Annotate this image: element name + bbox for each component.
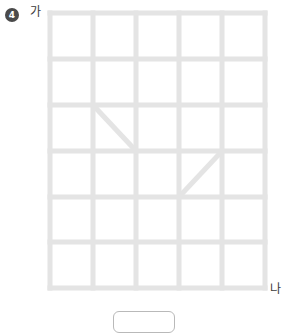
grid-horizontal-lines [50, 13, 265, 288]
diagonal-lower-right [179, 151, 222, 197]
question-number-badge: 4 [5, 8, 19, 22]
grid-label-ga: 가 [30, 6, 41, 18]
grid-label-na: 나 [270, 283, 281, 295]
diagonal-upper-left [93, 105, 136, 151]
grid-svg [47, 10, 268, 291]
grid-figure [47, 10, 268, 291]
answer-input-box[interactable] [113, 311, 175, 333]
